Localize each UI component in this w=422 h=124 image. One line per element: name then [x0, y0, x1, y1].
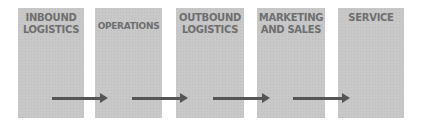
stage-label: SERVICE	[338, 12, 404, 24]
flow-arrow-icon	[52, 97, 102, 100]
flow-arrow-icon	[293, 97, 344, 100]
stage-label: INBOUND LOGISTICS	[18, 12, 84, 36]
stage-label: OUTBOUND LOGISTICS	[176, 12, 244, 36]
flow-arrow-icon	[132, 97, 182, 100]
stage-label: OPERATIONS	[95, 20, 162, 32]
stage-label: MARKETING AND SALES	[257, 12, 325, 36]
flow-arrow-icon	[213, 97, 264, 100]
stage-inbound-logistics: INBOUND LOGISTICS	[18, 8, 84, 118]
